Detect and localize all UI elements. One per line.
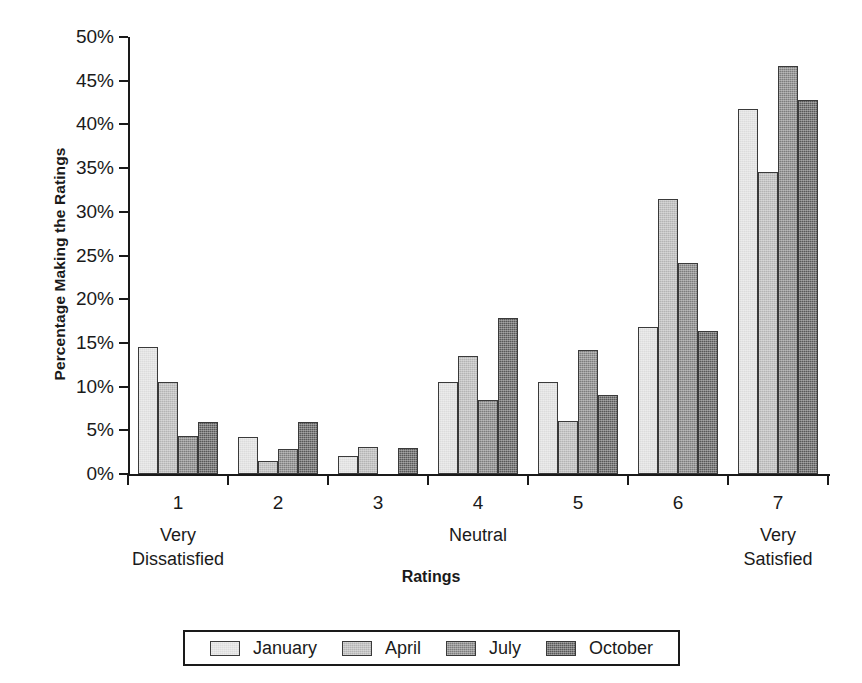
x-axis-tick-label: 2 (273, 492, 284, 514)
bar-halftone-pattern (539, 383, 557, 473)
bar-halftone-pattern (439, 383, 457, 473)
bar-halftone-pattern (759, 173, 777, 473)
bar-halftone-pattern (159, 383, 177, 473)
x-axis-tick-label: 6 (673, 492, 684, 514)
legend-swatch (446, 641, 476, 656)
y-axis-tick-label: 35% (44, 157, 114, 179)
bar-halftone-pattern (559, 422, 577, 473)
legend-swatch (546, 641, 576, 656)
y-axis-tick-label: 10% (44, 376, 114, 398)
bar-halftone-pattern (499, 319, 517, 473)
x-axis-category-sublabel: VeryDissatisfied (132, 524, 224, 572)
legend-swatch (210, 641, 240, 656)
x-axis-tick-label: 7 (773, 492, 784, 514)
bar-halftone-pattern (739, 110, 757, 473)
y-axis-tick (119, 255, 128, 257)
x-axis-tick (427, 474, 429, 485)
y-axis-tick (119, 123, 128, 125)
bar (538, 382, 558, 474)
x-axis-category-sublabel-line: Very (132, 524, 224, 548)
x-axis-category-sublabel-line: Neutral (449, 524, 507, 548)
bar (138, 347, 158, 474)
legend-item: January (210, 638, 317, 659)
legend-label: April (385, 638, 421, 659)
x-axis-tick (127, 474, 129, 485)
x-axis-category-sublabel: Neutral (449, 524, 507, 548)
x-axis-tick (527, 474, 529, 485)
y-axis-tick-label: 20% (44, 288, 114, 310)
bar (798, 100, 818, 474)
y-axis-tick-label: 30% (44, 201, 114, 223)
bar-halftone-pattern (639, 328, 657, 473)
bar (198, 422, 218, 474)
bar (678, 263, 698, 475)
legend-item: October (546, 638, 653, 659)
bar (258, 461, 278, 474)
legend-item: April (342, 638, 421, 659)
x-axis-category-sublabel: VerySatisfied (743, 524, 812, 572)
bar (778, 66, 798, 474)
bar-halftone-pattern (779, 67, 797, 473)
bar-halftone-pattern (279, 450, 297, 473)
bar-halftone-pattern (679, 264, 697, 474)
x-axis-tick (727, 474, 729, 485)
bar-halftone-pattern (359, 448, 377, 473)
bar (398, 448, 418, 474)
y-axis-tick-label: 0% (44, 463, 114, 485)
bar-halftone-pattern (199, 423, 217, 473)
bar (578, 350, 598, 474)
bar-halftone-pattern (399, 449, 417, 473)
y-axis-line (128, 37, 130, 475)
x-axis-title: Ratings (0, 568, 862, 586)
bar-halftone-pattern (339, 457, 357, 473)
bar-halftone-pattern (699, 332, 717, 473)
bar-halftone-pattern (659, 200, 677, 473)
bar-halftone-pattern (179, 437, 197, 473)
bar (598, 395, 618, 474)
y-axis-tick-label: 45% (44, 70, 114, 92)
y-axis-tick (119, 36, 128, 38)
y-axis-tick-label: 50% (44, 26, 114, 48)
legend-swatch-halftone-pattern (343, 642, 371, 655)
y-axis-tick (119, 80, 128, 82)
legend-swatch (342, 641, 372, 656)
bar (338, 456, 358, 474)
bar-halftone-pattern (299, 423, 317, 473)
bar (658, 199, 678, 474)
chart-legend: JanuaryAprilJulyOctober (183, 630, 680, 666)
bar (558, 421, 578, 474)
plot-area: 0%5%10%15%20%25%30%35%40%45%50% 1VeryDis… (128, 37, 828, 474)
legend-swatch-halftone-pattern (547, 642, 575, 655)
legend-swatch-halftone-pattern (211, 642, 239, 655)
bar (278, 449, 298, 474)
bar (438, 382, 458, 474)
y-axis-tick (119, 167, 128, 169)
y-axis-tick (119, 429, 128, 431)
x-axis-tick (627, 474, 629, 485)
bar (478, 400, 498, 474)
x-axis-tick (327, 474, 329, 485)
x-axis-tick-label: 3 (373, 492, 384, 514)
x-axis-tick-label: 4 (473, 492, 484, 514)
y-axis-tick-label: 5% (44, 419, 114, 441)
y-axis-tick (119, 342, 128, 344)
bar-halftone-pattern (459, 357, 477, 473)
x-axis-tick-label: 1 (173, 492, 184, 514)
y-axis-tick (119, 386, 128, 388)
x-axis-category-sublabel-line: Very (743, 524, 812, 548)
y-axis-tick (119, 211, 128, 213)
x-axis-tick (227, 474, 229, 485)
bar (738, 109, 758, 474)
bar-halftone-pattern (259, 462, 277, 473)
bar-halftone-pattern (139, 348, 157, 473)
bar-halftone-pattern (579, 351, 597, 473)
legend-label: July (489, 638, 521, 659)
bar (298, 422, 318, 474)
bar-halftone-pattern (479, 401, 497, 473)
bar (158, 382, 178, 474)
x-axis-tick-label: 5 (573, 492, 584, 514)
bar (758, 172, 778, 474)
y-axis-tick-label: 40% (44, 113, 114, 135)
bar (458, 356, 478, 474)
y-axis-tick (119, 298, 128, 300)
